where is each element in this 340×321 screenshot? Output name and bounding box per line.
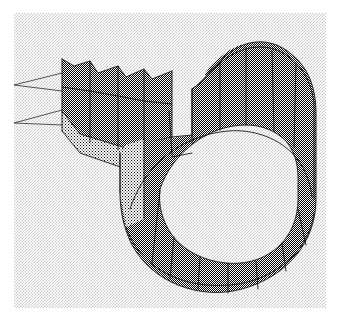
lower-tangent-line [14,110,62,123]
upper-tangent-line-inner [14,85,62,91]
upper-tangent-line [14,73,62,85]
surface-mesh-plot [14,13,326,308]
plot-area [14,13,326,308]
lower-tangent-line-inner [14,123,62,125]
figure-container [0,0,340,321]
